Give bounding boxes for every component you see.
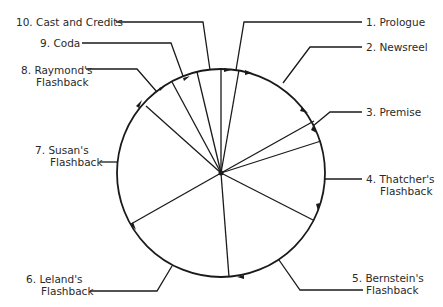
label-coda: 9. Coda <box>40 37 80 49</box>
leader-newsreel <box>283 47 362 83</box>
label-thatcher: 4. Thatcher's Flashback <box>366 173 435 197</box>
spoke <box>131 173 221 224</box>
label-raymond: 8. Raymond's Flashback <box>21 64 92 88</box>
label-cast-credits: 10. Cast and Credits <box>16 16 123 28</box>
leader-prologue <box>236 22 362 70</box>
label-leland: 6. Leland's Flashback <box>26 273 93 297</box>
spoke <box>197 72 221 173</box>
spoke <box>172 82 221 173</box>
spoke <box>221 141 321 173</box>
arrow-icon <box>183 76 190 81</box>
spoke <box>221 173 313 220</box>
spoke <box>221 173 229 277</box>
spoke <box>221 121 314 173</box>
label-susan: 7. Susan's Flashback <box>35 144 102 168</box>
leader-leland <box>90 266 172 291</box>
label-newsreel: 2. Newsreel <box>366 41 428 53</box>
spoke <box>221 70 239 173</box>
leader-cast-credits <box>116 22 210 70</box>
leader-coda <box>82 43 183 76</box>
film-structure-diagram: 1. Prologue 2. Newsreel 3. Premise 4. Th… <box>0 0 443 307</box>
leader-premise <box>313 112 362 126</box>
spoke <box>146 106 221 173</box>
label-premise: 3. Premise <box>366 106 421 118</box>
leader-bernstein <box>279 260 363 290</box>
label-prologue: 1. Prologue <box>366 16 425 28</box>
label-bernstein: 5. Bernstein's Flashback <box>352 272 424 296</box>
center-hub <box>219 171 224 176</box>
leader-raymond <box>86 69 157 92</box>
